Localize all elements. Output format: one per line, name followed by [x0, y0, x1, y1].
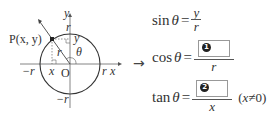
- neg-r-x-label: −r: [22, 64, 35, 78]
- tan-fn: tan: [152, 89, 170, 106]
- cos-fraction: 1 r: [194, 40, 234, 74]
- pos-r-x-label: r: [102, 64, 107, 78]
- answer-blank-1[interactable]: 1: [198, 40, 230, 57]
- sin-equation: sin θ = y r: [152, 6, 201, 34]
- tan-equation: tan θ = 2 x (x≠0): [152, 80, 266, 114]
- sin-fn: sin: [152, 12, 170, 29]
- tan-denominator: x: [209, 100, 215, 114]
- neg-r-y-label: −r: [56, 92, 69, 106]
- tan-condition: (x≠0): [238, 90, 266, 106]
- arrow-icon: →: [133, 55, 145, 71]
- cos-equals: =: [183, 49, 191, 66]
- unit-circle-diagram: P(x, y) y r y r θ −r x O r x −r: [0, 0, 130, 122]
- tan-theta: θ: [172, 89, 179, 106]
- condition-rest: ≠0): [248, 90, 266, 105]
- side-y-label: y: [73, 31, 80, 45]
- pos-r-y-label: r: [66, 20, 71, 34]
- cos-denominator: r: [211, 60, 216, 74]
- x-axis-label: x: [109, 64, 116, 78]
- sin-numerator: y: [193, 6, 199, 19]
- sin-denominator: r: [194, 20, 199, 34]
- cos-theta: θ: [174, 49, 181, 66]
- cos-equation: cos θ = 1 r: [152, 40, 234, 74]
- point-label: P(x, y): [9, 32, 42, 46]
- tan-equals: =: [182, 89, 190, 106]
- cos-fn: cos: [152, 49, 172, 66]
- point-p: [50, 37, 54, 41]
- answer-blank-2[interactable]: 2: [196, 80, 228, 97]
- x-axis-arrow-icon: [118, 62, 122, 66]
- foot-x-label: x: [48, 64, 55, 78]
- sin-fraction: y r: [191, 6, 201, 34]
- blank-number-badge: 1: [202, 43, 211, 52]
- right-angle-mark-2: [66, 39, 70, 43]
- hyp-r-label: r: [57, 45, 62, 59]
- sin-theta: θ: [172, 12, 179, 29]
- theta-label: θ: [76, 45, 82, 59]
- y-axis-label: y: [63, 6, 70, 20]
- tan-fraction: 2 x: [192, 80, 232, 114]
- blank-number-badge: 2: [200, 83, 209, 92]
- origin-label: O: [61, 66, 70, 80]
- sin-equals: =: [181, 12, 189, 29]
